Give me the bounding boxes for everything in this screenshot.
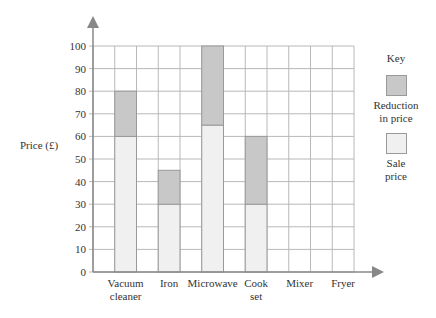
y-tick-label: 60 xyxy=(75,130,87,142)
legend-item-sale: Sale price xyxy=(366,133,426,183)
y-tick-label: 70 xyxy=(75,108,87,120)
y-tick-label: 100 xyxy=(70,40,87,52)
y-tick-labels: 0102030405060708090100 xyxy=(70,40,87,278)
bar-segment xyxy=(115,91,137,136)
legend-label-line2: in price xyxy=(366,112,426,125)
legend-swatch-reduction xyxy=(386,75,407,96)
bar-segment xyxy=(158,170,180,204)
x-category-label: Iron xyxy=(160,277,179,289)
y-tick-label: 0 xyxy=(81,266,87,278)
y-tick-label: 20 xyxy=(75,221,87,233)
legend-label-line1: Sale xyxy=(366,157,426,170)
y-axis-arrow-icon xyxy=(87,16,99,28)
x-axis-arrow-icon xyxy=(372,266,384,278)
x-category-label: Cook xyxy=(244,277,268,289)
bar-segment xyxy=(158,204,180,272)
y-tick-label: 30 xyxy=(75,198,87,210)
legend: Key Reduction in price Sale price xyxy=(366,52,426,191)
legend-item-reduction: Reduction in price xyxy=(366,75,426,125)
x-category-label: Microwave xyxy=(188,277,238,289)
y-axis-label: Price (£) xyxy=(20,139,58,151)
x-category-label-line2: set xyxy=(250,290,262,302)
legend-label-line1: Reduction xyxy=(366,99,426,112)
y-tick-label: 80 xyxy=(75,85,87,97)
x-category-labels: VacuumcleanerIronMicrowaveCooksetMixerFr… xyxy=(108,277,356,302)
y-tick-label: 50 xyxy=(75,153,87,165)
bar-segment xyxy=(245,204,267,272)
legend-swatch-sale xyxy=(386,133,407,154)
x-category-label: Fryer xyxy=(331,277,355,289)
x-category-label-line2: cleaner xyxy=(110,290,142,302)
bar-segment xyxy=(115,136,137,272)
x-category-label: Vacuum xyxy=(108,277,144,289)
bar-segment xyxy=(202,125,224,272)
legend-label-line2: price xyxy=(366,170,426,183)
y-tick-label: 90 xyxy=(75,63,87,75)
legend-title: Key xyxy=(366,52,426,65)
y-tick-label: 10 xyxy=(75,243,87,255)
bar-segment xyxy=(245,136,267,204)
y-tick-label: 40 xyxy=(75,176,87,188)
bar-segment xyxy=(202,46,224,125)
x-category-label: Mixer xyxy=(286,277,313,289)
